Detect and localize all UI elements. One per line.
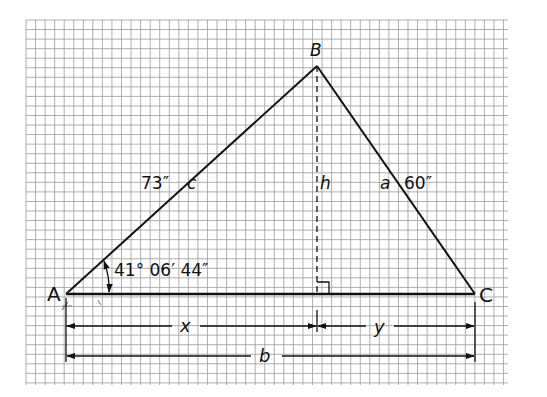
stray-tick-mark (98, 300, 101, 305)
side-c-length-label: 73″ (141, 173, 169, 193)
vertex-b-label: B (310, 40, 322, 60)
vertex-a-tick-mark (62, 302, 72, 310)
dimension-x-label: x (179, 315, 191, 336)
dimension-y-label: y (373, 316, 385, 337)
angle-a-label: 41° 06′ 44″ (114, 260, 208, 280)
vertex-a-label: A (47, 282, 61, 306)
altitude-h-label: h (320, 173, 331, 193)
side-a-line (317, 66, 475, 294)
side-c-label: c (187, 173, 197, 193)
side-a-length-label: 60″ (404, 173, 432, 193)
side-a-label: a (380, 173, 390, 193)
triangle-diagram: A B C 73″ c h a 60″ 41° 06′ 44″ x y b (0, 0, 547, 397)
vertex-c-label: C (479, 283, 493, 307)
dimension-b-label: b (259, 345, 270, 366)
right-angle-marker (317, 282, 329, 294)
graph-paper-grid (26, 20, 508, 385)
